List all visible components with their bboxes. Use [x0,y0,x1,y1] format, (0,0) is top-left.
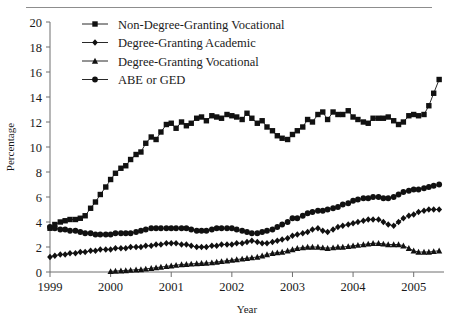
marker-diamond [52,252,58,259]
y-tick-label: 20 [30,16,43,30]
marker-diamond [173,240,179,247]
marker-diamond [400,215,406,222]
marker-square [436,77,441,82]
legend-entry-3: Degree-Granting Vocational [82,55,259,69]
chart-figure: 0246810121416182019992000200120022003200… [0,0,458,322]
marker-diamond [406,212,412,219]
marker-square [189,121,194,126]
marker-diamond [254,239,260,246]
marker-diamond [93,247,99,254]
marker-square [67,217,72,222]
marker-square [411,112,416,117]
marker-square [138,149,143,154]
y-tick-label: 0 [36,266,42,280]
marker-square [214,114,219,119]
marker-square [103,184,108,189]
marker-circle [365,195,371,201]
marker-diamond [239,240,245,247]
marker-diamond [315,225,321,232]
marker-square [169,121,174,126]
marker-square [421,112,426,117]
marker-circle [385,195,391,201]
marker-circle [73,228,79,234]
legend-label: Non-Degree-Granting Vocational [118,18,285,32]
marker-circle [128,230,134,236]
marker-diamond [138,244,144,251]
marker-square [92,21,97,26]
marker-square [350,114,355,119]
marker-square [361,119,366,124]
marker-square [199,114,204,119]
marker-circle [376,194,382,200]
marker-diamond [310,226,316,233]
legend-label: Degree-Granting Academic [118,36,256,50]
marker-circle [183,225,189,231]
marker-diamond [370,216,376,223]
marker-diamond [244,239,250,246]
marker-diamond [214,242,220,249]
series-1 [47,77,442,231]
marker-circle [188,227,194,233]
marker-diamond [274,237,280,244]
marker-square [396,122,401,127]
marker-square [431,91,436,96]
y-tick-label: 16 [30,66,43,80]
marker-circle [370,194,376,200]
marker-circle [92,77,98,83]
marker-diamond [355,219,361,226]
marker-diamond [421,207,427,214]
marker-square [370,116,375,121]
marker-diamond [279,236,285,243]
y-tick-label: 8 [36,166,42,180]
marker-triangle [436,248,442,254]
marker-diamond [385,221,391,228]
marker-diamond [113,245,119,252]
y-tick-label: 6 [36,191,42,205]
marker-circle [239,228,245,234]
marker-square [300,124,305,129]
marker-diamond [219,241,225,248]
marker-square [123,163,128,168]
marker-diamond [376,216,382,223]
marker-circle [52,225,58,231]
marker-diamond [431,206,437,213]
marker-square [194,116,199,121]
marker-diamond [73,250,79,257]
marker-square [275,133,280,138]
marker-square [426,103,431,108]
marker-diamond [62,251,68,258]
y-tick-label: 2 [36,241,42,255]
marker-circle [279,222,285,228]
legend-entry-4: ABE or GED [82,73,185,87]
marker-square [315,112,320,117]
marker-circle [108,232,114,238]
marker-circle [173,225,179,231]
marker-square [82,213,87,218]
marker-square [128,157,133,162]
legend-entry-2: Degree-Granting Academic [82,36,256,50]
marker-circle [426,184,432,190]
marker-circle [143,227,149,233]
marker-diamond [123,245,129,252]
marker-diamond [92,39,98,46]
x-tick-label: 2001 [159,280,184,294]
marker-square [401,119,406,124]
marker-square [224,112,229,117]
marker-circle [416,187,422,193]
marker-circle [249,230,255,236]
marker-diamond [300,230,306,237]
marker-diamond [229,241,235,248]
marker-diamond [203,244,209,251]
series-path [50,80,439,229]
marker-square [88,206,93,211]
marker-diamond [97,246,103,253]
marker-square [204,118,209,123]
marker-square [310,119,315,124]
line-chart-plot: 0246810121416182019992000200120022003200… [0,0,458,322]
marker-square [78,216,83,221]
marker-circle [320,208,326,214]
y-tick-label: 14 [30,91,43,105]
marker-square [305,117,310,122]
marker-diamond [330,226,336,233]
marker-diamond [249,237,255,244]
